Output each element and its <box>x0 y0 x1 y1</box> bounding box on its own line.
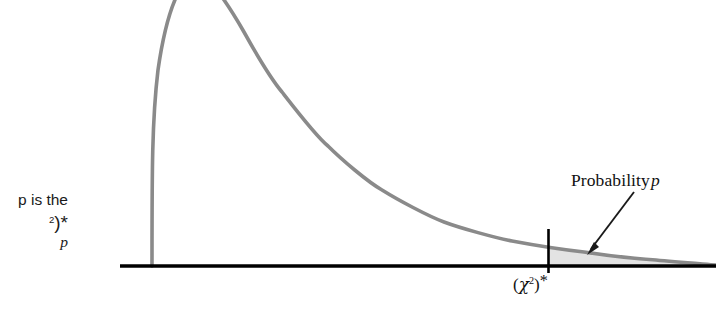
caption-line-1: p is the <box>0 190 68 210</box>
distribution-plot <box>0 0 716 309</box>
chi-symbol: χ <box>519 274 529 294</box>
left-caption: p is the 2)* p <box>0 190 68 251</box>
caption-line-2: 2)* <box>0 210 68 232</box>
probability-label-text: Probability <box>571 170 650 190</box>
annotation-arrow-shaft <box>591 192 634 249</box>
caption-line-2-tail: )* <box>54 211 68 232</box>
shaded-tail-region <box>152 0 716 266</box>
caption-line-3: p <box>0 232 68 252</box>
critical-value-label: (χ2)* <box>513 272 548 295</box>
probability-label: Probabilityp <box>571 170 660 191</box>
probability-label-variable: p <box>650 170 660 190</box>
chi-square-density-curve <box>152 0 716 266</box>
chi-square-tail-figure: p is the 2)* p Probabilityp (χ2)* <box>0 0 716 309</box>
critical-value-star: * <box>540 272 548 289</box>
